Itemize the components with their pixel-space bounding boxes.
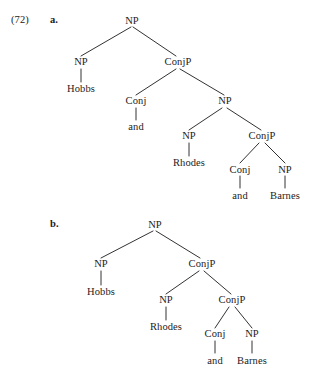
tree-a-leaf-hobbs: Hobbs [67, 84, 95, 95]
tree-b-leaf-hobbs: Hobbs [87, 287, 115, 298]
tree-b-leaf-and-1: and [207, 356, 222, 367]
branch-a-conjp2-right [265, 143, 285, 163]
tree-a-node-np-rhodes: NP [182, 131, 196, 142]
item-letter-b: b. [50, 219, 59, 230]
tree-b-leaf-rhodes: Rhodes [150, 322, 182, 333]
branch-a-conjp1-left [136, 69, 176, 95]
tree-a-node-conj-2: Conj [230, 165, 251, 176]
tree-a-leaf-barnes: Barnes [270, 191, 300, 202]
branch-a-np2-right [227, 108, 261, 130]
branch-b-root-right [156, 231, 200, 258]
tree-b-node-root: NP [148, 220, 162, 231]
syntax-tree-figure: (72) a. b. [0, 0, 323, 385]
branch-b-conjp1-left [166, 271, 199, 294]
tree-b-node-conjp-2: ConjP [219, 295, 246, 306]
branch-a-np2-left [189, 108, 222, 130]
branch-b-conjp2-left [215, 307, 229, 328]
branch-b-root-left [101, 231, 153, 258]
branch-a-root-right [133, 27, 176, 56]
branch-b-conjp1-right [204, 271, 231, 294]
tree-b-leaf-barnes: Barnes [237, 356, 267, 367]
example-number: (72) [11, 15, 29, 26]
branch-b-conjp2-right [235, 307, 252, 328]
tree-b-node-np-rhodes: NP [159, 295, 173, 306]
tree-a-leaf-and-1: and [128, 122, 143, 133]
tree-a-leaf-rhodes: Rhodes [173, 158, 205, 169]
branch-a-conjp1-right [180, 69, 224, 95]
tree-a-node-conjp-2: ConjP [249, 131, 276, 142]
tree-b-node-conjp-1: ConjP [189, 259, 216, 270]
tree-a-node-conjp-1: ConjP [165, 57, 192, 68]
tree-a-node-np-2: NP [218, 96, 232, 107]
tree-b-node-np-barnes: NP [245, 329, 259, 340]
tree-a-leaf-and-2: and [232, 191, 247, 202]
branch-a-conjp2-left [240, 143, 259, 163]
tree-a-node-conj-1: Conj [126, 96, 147, 107]
item-letter-a: a. [50, 15, 58, 26]
tree-a-node-np-barnes: NP [278, 165, 292, 176]
branch-a-root-left [81, 27, 131, 56]
tree-b-node-np-hobbs: NP [94, 259, 108, 270]
tree-a-node-root: NP [125, 16, 139, 27]
tree-b-node-conj-1: Conj [205, 329, 226, 340]
tree-a-node-np-hobbs: NP [74, 57, 88, 68]
